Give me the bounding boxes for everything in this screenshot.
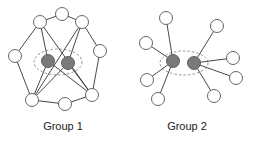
node (34, 16, 47, 29)
edge (15, 56, 32, 100)
node (227, 52, 240, 65)
node (59, 98, 72, 111)
node (26, 94, 39, 107)
node (160, 12, 173, 25)
node (140, 37, 153, 50)
node (76, 16, 89, 29)
node (141, 74, 154, 87)
node (56, 8, 69, 21)
hub-node (167, 55, 180, 68)
network-diagram: Group 1 Group 2 (0, 0, 253, 141)
node (208, 90, 221, 103)
node (211, 20, 224, 33)
group-2 (140, 12, 243, 106)
node (86, 89, 99, 102)
node (230, 72, 243, 85)
node (94, 45, 107, 58)
node (152, 93, 165, 106)
hub-node (62, 57, 75, 70)
hub-node (42, 55, 55, 68)
group-1 (9, 8, 107, 111)
group-1-label: Group 1 (23, 120, 103, 132)
hub-node (188, 57, 201, 70)
node (9, 50, 22, 63)
group-2-label: Group 2 (147, 120, 227, 132)
